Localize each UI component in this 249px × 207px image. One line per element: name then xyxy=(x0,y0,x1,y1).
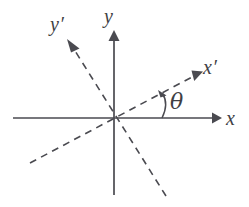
x-prime-axis-arrowhead-icon xyxy=(192,71,204,81)
coordinate-axes-figure: y y′ x′ x θ xyxy=(0,0,249,207)
x-prime-axis-line xyxy=(30,77,193,164)
y-axis-arrowhead-icon xyxy=(109,30,120,41)
y-prime-axis-line xyxy=(75,50,167,196)
x-axis-label: x xyxy=(226,108,235,128)
y-prime-axis-arrowhead-icon xyxy=(67,39,80,53)
y-axis xyxy=(109,30,120,195)
theta-arc xyxy=(162,94,165,119)
theta-angle-label: θ xyxy=(170,91,183,113)
y-axis-label: y xyxy=(104,6,113,26)
y-prime-axis-label: y′ xyxy=(50,14,64,34)
x-axis-arrowhead-icon xyxy=(212,113,222,124)
x-prime-axis-label: x′ xyxy=(203,57,217,77)
axes-drawing xyxy=(0,0,249,207)
theta-angle-marker xyxy=(158,90,167,118)
